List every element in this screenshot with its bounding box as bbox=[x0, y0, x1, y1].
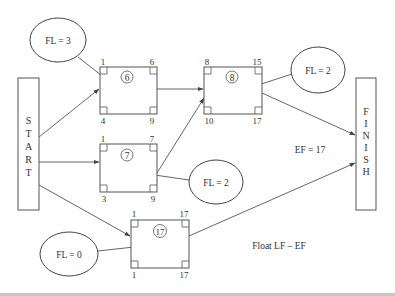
early-start: 1 bbox=[101, 57, 106, 67]
start-letter: A bbox=[25, 141, 33, 152]
early-finish: 7 bbox=[150, 134, 155, 144]
float-callout-7: FL = 2 bbox=[189, 160, 243, 204]
activity-id: 6 bbox=[125, 73, 130, 83]
late-finish: 9 bbox=[150, 116, 155, 126]
start-node: S T A R T bbox=[18, 78, 39, 210]
float-label: FL = 2 bbox=[305, 66, 331, 76]
late-start: 4 bbox=[101, 116, 106, 126]
finish-letter: H bbox=[362, 166, 369, 177]
late-start: 1 bbox=[132, 270, 137, 280]
activity-id: 17 bbox=[156, 227, 166, 237]
activity-node-8: 8 8 15 10 17 bbox=[204, 57, 262, 126]
activity-node-7: 7 1 7 3 9 bbox=[100, 134, 157, 204]
finish-letter: I bbox=[364, 118, 367, 129]
activity-node-6: 6 1 6 4 9 bbox=[100, 57, 157, 126]
float-callout-8: FL = 2 bbox=[291, 47, 345, 93]
edge-start-to-6 bbox=[39, 89, 99, 137]
late-start: 10 bbox=[205, 116, 215, 126]
late-finish: 9 bbox=[151, 194, 156, 204]
early-start: 8 bbox=[205, 57, 210, 67]
float-callout-17: FL = 0 bbox=[40, 232, 98, 276]
early-finish: 17 bbox=[180, 209, 190, 219]
start-letter: R bbox=[25, 154, 32, 165]
activity-node-17: 17 1 17 1 17 bbox=[131, 209, 189, 280]
edge-start-to-17 bbox=[39, 185, 130, 236]
late-start: 3 bbox=[102, 194, 107, 204]
finish-letter: F bbox=[363, 106, 369, 117]
start-letter: T bbox=[25, 167, 31, 178]
float-callout-6: FL = 3 bbox=[30, 18, 86, 62]
float-label: FL = 0 bbox=[56, 250, 82, 260]
early-start: 1 bbox=[132, 209, 137, 219]
network-diagram: S T A R T F I N I S H 6 1 6 4 9 bbox=[0, 0, 395, 296]
start-letter: S bbox=[26, 115, 32, 126]
finish-letter: S bbox=[363, 154, 369, 165]
float-formula-annotation: Float LF – EF bbox=[252, 241, 306, 251]
early-finish: 15 bbox=[253, 57, 263, 67]
edge-7-to-8 bbox=[157, 98, 204, 173]
ef-annotation: EF = 17 bbox=[295, 145, 326, 155]
finish-letter: I bbox=[364, 142, 367, 153]
start-letter: T bbox=[25, 128, 31, 139]
late-finish: 17 bbox=[253, 116, 263, 126]
float-label: FL = 2 bbox=[203, 178, 229, 188]
early-start: 1 bbox=[101, 134, 106, 144]
late-finish: 17 bbox=[180, 270, 190, 280]
early-finish: 6 bbox=[150, 57, 155, 67]
finish-node: F I N I S H bbox=[356, 78, 376, 210]
activity-id: 7 bbox=[125, 151, 130, 161]
finish-letter: N bbox=[362, 130, 369, 141]
activity-id: 8 bbox=[230, 73, 235, 83]
float-label: FL = 3 bbox=[45, 36, 71, 46]
edge-8-to-finish bbox=[262, 93, 355, 135]
